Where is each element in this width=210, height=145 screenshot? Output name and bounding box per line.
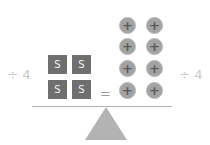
variable-tile: S [48, 80, 67, 99]
plus-counter-icon: + [146, 38, 163, 55]
variable-tile: S [72, 55, 91, 74]
equals-sign: = [100, 86, 111, 101]
plus-counter-icon: + [119, 60, 136, 77]
plus-counter-icon: + [119, 38, 136, 55]
variable-tile: S [72, 80, 91, 99]
right-operation-label: ÷ 4 [178, 67, 204, 82]
fulcrum-triangle-icon [84, 106, 128, 142]
plus-counter-icon: + [146, 60, 163, 77]
plus-counter-icon: + [119, 82, 136, 99]
variable-tile: S [48, 55, 67, 74]
plus-counter-icon: + [146, 17, 163, 34]
plus-counter-icon: + [146, 82, 163, 99]
plus-counter-icon: + [119, 17, 136, 34]
left-operation-label: ÷ 4 [6, 67, 32, 82]
